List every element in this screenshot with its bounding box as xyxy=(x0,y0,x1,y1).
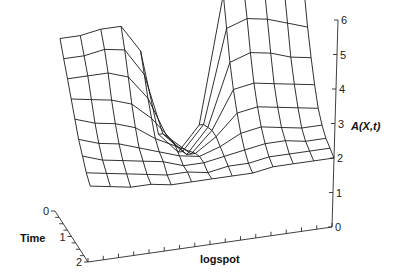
time-axis-ticks: 012 xyxy=(43,205,88,268)
mesh-column xyxy=(264,0,293,164)
mesh-row xyxy=(68,53,312,155)
time-tick-label: 0 xyxy=(43,205,49,217)
mesh-column xyxy=(60,39,90,187)
surface-plot: 0123456 A(X,t) logspot 012 Time xyxy=(0,0,397,278)
mesh-column xyxy=(284,0,314,161)
z-tick-label: 2 xyxy=(337,152,343,164)
mesh-column xyxy=(304,0,334,158)
z-tick-label: 1 xyxy=(336,187,342,199)
mesh-row xyxy=(75,107,318,154)
z-axis-label: A(X,t) xyxy=(350,120,381,132)
x-axis-label: logspot xyxy=(200,253,240,265)
z-tick-label: 4 xyxy=(339,83,345,95)
surface-mesh xyxy=(60,0,334,187)
time-tick-label: 2 xyxy=(76,256,82,268)
z-tick-label: 3 xyxy=(338,118,344,130)
mesh-row xyxy=(64,19,308,152)
time-tick-label: 1 xyxy=(60,231,66,243)
mesh-column xyxy=(101,29,131,187)
z-tick-label: 0 xyxy=(335,221,341,233)
time-axis-label: Time xyxy=(20,232,45,244)
z-tick-label: 5 xyxy=(340,49,346,61)
z-tick-label: 6 xyxy=(341,14,347,26)
